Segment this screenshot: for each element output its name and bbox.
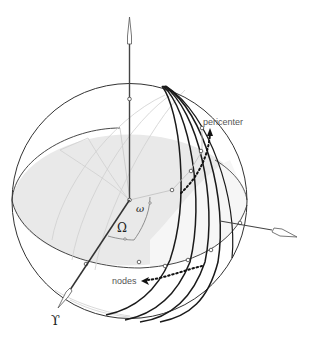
longitude-of-node-label: Ω: [117, 221, 127, 235]
argument-of-pericenter-label: ω: [136, 203, 144, 214]
nodes-regression-arrow: [141, 266, 202, 285]
pericenter-label: pericenter: [203, 117, 243, 127]
nodes-label: nodes: [112, 276, 137, 286]
orbital-elements-diagram: [0, 0, 310, 342]
vernal-equinox-label: ϒ: [51, 313, 60, 328]
